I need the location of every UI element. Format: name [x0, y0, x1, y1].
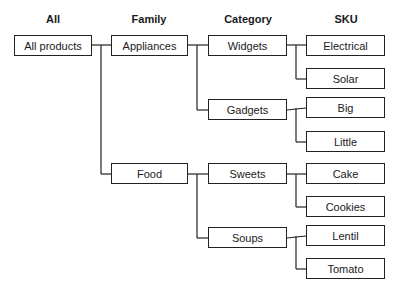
node-cookies: Cookies: [306, 196, 385, 217]
node-tomato: Tomato: [306, 258, 385, 279]
node-sweets: Sweets: [208, 163, 287, 184]
node-all-products: All products: [14, 35, 92, 56]
node-widgets: Widgets: [208, 35, 287, 56]
node-electrical: Electrical: [306, 35, 385, 56]
node-cake: Cake: [306, 163, 385, 184]
node-appliances: Appliances: [111, 35, 188, 56]
node-gadgets: Gadgets: [208, 99, 287, 120]
node-soups: Soups: [208, 227, 287, 248]
node-solar: Solar: [306, 68, 385, 89]
node-lentil: Lentil: [306, 225, 385, 246]
node-little: Little: [306, 131, 385, 152]
node-food: Food: [111, 163, 188, 184]
node-big: Big: [306, 97, 385, 118]
